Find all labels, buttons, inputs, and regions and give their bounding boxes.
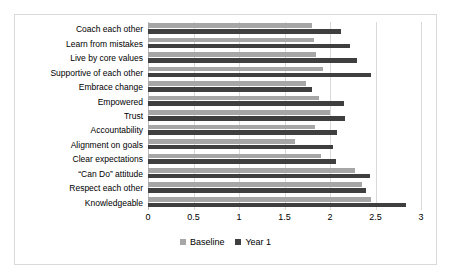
category-label: Trust bbox=[124, 111, 143, 121]
bar-baseline bbox=[148, 23, 312, 28]
bar-year-1 bbox=[148, 130, 337, 135]
category-label: Accountability bbox=[91, 125, 143, 135]
legend-swatch-icon bbox=[235, 239, 241, 245]
bar-baseline bbox=[148, 67, 323, 72]
bar-year-1 bbox=[148, 159, 336, 164]
chart-container: Coach each otherLearn from mistakesLive … bbox=[14, 14, 437, 265]
bar-baseline bbox=[148, 154, 321, 159]
bar-baseline bbox=[148, 168, 355, 173]
x-tick-label: 1.5 bbox=[278, 212, 291, 222]
legend-label: Baseline bbox=[190, 237, 225, 247]
x-axis: 00.511.522.53 bbox=[148, 212, 421, 228]
category-label: Clear expectations bbox=[73, 154, 143, 164]
bar-rows: Coach each otherLearn from mistakesLive … bbox=[148, 22, 421, 210]
bar-year-1 bbox=[148, 29, 341, 34]
chart-row: Trust bbox=[148, 109, 421, 123]
gridline-3 bbox=[421, 22, 422, 210]
category-label: Supportive of each other bbox=[50, 68, 143, 78]
chart-legend: BaselineYear 1 bbox=[15, 237, 436, 247]
bar-year-1 bbox=[148, 58, 357, 63]
x-tick-label: 1 bbox=[236, 212, 241, 222]
chart-row: Coach each other bbox=[148, 22, 421, 36]
category-label: “Can Do” attitude bbox=[78, 169, 143, 179]
chart-row: Clear expectations bbox=[148, 152, 421, 166]
x-tick-label: 2 bbox=[327, 212, 332, 222]
bar-year-1 bbox=[148, 44, 350, 49]
category-label: Knowledgeable bbox=[85, 198, 143, 208]
category-label: Empowered bbox=[98, 97, 143, 107]
bar-year-1 bbox=[148, 87, 312, 92]
bar-baseline bbox=[148, 81, 306, 86]
bar-year-1 bbox=[148, 101, 344, 106]
legend-item[interactable]: Year 1 bbox=[235, 237, 271, 247]
legend-swatch-icon bbox=[180, 239, 186, 245]
chart-row: Knowledgeable bbox=[148, 196, 421, 210]
x-tick-label: 3 bbox=[418, 212, 423, 222]
category-label: Coach each other bbox=[76, 24, 143, 34]
chart-row: Supportive of each other bbox=[148, 65, 421, 79]
bar-baseline bbox=[148, 96, 319, 101]
x-tick-label: 0 bbox=[145, 212, 150, 222]
legend-item[interactable]: Baseline bbox=[180, 237, 225, 247]
bar-baseline bbox=[148, 197, 371, 202]
bar-year-1 bbox=[148, 188, 366, 193]
category-label: Learn from mistakes bbox=[66, 39, 143, 49]
category-label: Embrace change bbox=[79, 82, 143, 92]
legend-label: Year 1 bbox=[245, 237, 271, 247]
bar-year-1 bbox=[148, 203, 406, 208]
chart-row: Empowered bbox=[148, 94, 421, 108]
bar-baseline bbox=[148, 52, 316, 57]
category-label: Respect each other bbox=[69, 183, 143, 193]
chart-row: Live by core values bbox=[148, 51, 421, 65]
bar-baseline bbox=[148, 182, 362, 187]
chart-row: Embrace change bbox=[148, 80, 421, 94]
x-tick-label: 0.5 bbox=[187, 212, 200, 222]
bar-baseline bbox=[148, 110, 330, 115]
bar-baseline bbox=[148, 38, 314, 43]
category-label: Alignment on goals bbox=[71, 140, 143, 150]
bar-year-1 bbox=[148, 116, 345, 121]
chart-row: Accountability bbox=[148, 123, 421, 137]
chart-row: Learn from mistakes bbox=[148, 36, 421, 50]
bar-baseline bbox=[148, 139, 295, 144]
bar-year-1 bbox=[148, 73, 371, 78]
bar-baseline bbox=[148, 125, 315, 130]
bar-year-1 bbox=[148, 145, 333, 150]
plot-area: Coach each otherLearn from mistakesLive … bbox=[148, 22, 421, 210]
chart-row: “Can Do” attitude bbox=[148, 167, 421, 181]
bar-year-1 bbox=[148, 174, 370, 179]
chart-row: Respect each other bbox=[148, 181, 421, 195]
x-tick-label: 2.5 bbox=[369, 212, 382, 222]
category-label: Live by core values bbox=[70, 53, 143, 63]
chart-row: Alignment on goals bbox=[148, 138, 421, 152]
